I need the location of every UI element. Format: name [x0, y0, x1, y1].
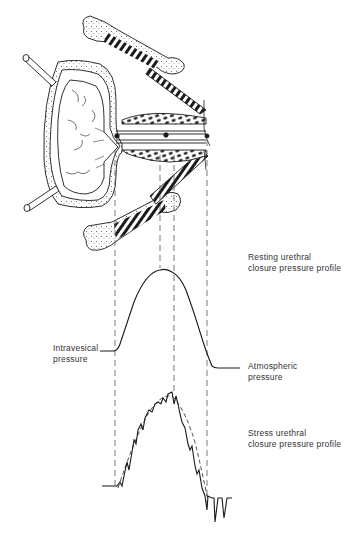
resting-profile-label: Resting urethral closure pressure profil…: [248, 252, 341, 274]
intravesical-pressure-label: Intravesical pressure: [53, 343, 98, 365]
sphincter-marker: [164, 133, 168, 137]
meatus-marker: [205, 134, 209, 138]
atmospheric-pressure-label: Atmospheric pressure: [248, 361, 297, 383]
bladder-neck-marker: [115, 134, 119, 138]
stress-profile-curve: [102, 392, 232, 522]
stress-profile-label: Stress urethral closure pressure profile: [248, 428, 341, 450]
resting-profile-curve: [100, 269, 240, 368]
pelvic-anatomy: [23, 16, 210, 250]
catheter-upper: [23, 55, 56, 87]
